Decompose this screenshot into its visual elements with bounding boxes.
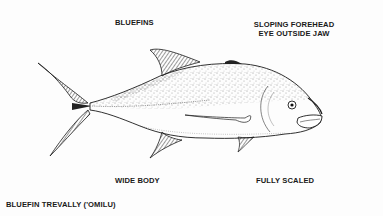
- label-sloping-forehead: SLOPING FOREHEAD: [244, 20, 344, 29]
- pelvic-fin: [238, 137, 254, 152]
- label-bluefins: BLUEFINS: [115, 18, 154, 27]
- label-eye-outside-jaw: EYE OUTSIDE JAW: [244, 29, 344, 38]
- diagram-canvas: BLUEFINS SLOPING FOREHEAD EYE OUTSIDE JA…: [0, 0, 383, 216]
- tail-fin: [38, 63, 92, 156]
- second-dorsal-fin: [225, 60, 242, 64]
- diagram-title: BLUEFIN TREVALLY ('OMILU): [6, 200, 116, 209]
- label-forehead-eye: SLOPING FOREHEAD EYE OUTSIDE JAW: [244, 20, 344, 38]
- jaw: [297, 115, 322, 128]
- fish-body: [90, 64, 321, 139]
- label-wide-body: WIDE BODY: [115, 176, 160, 185]
- label-fully-scaled: FULLY SCALED: [256, 176, 314, 185]
